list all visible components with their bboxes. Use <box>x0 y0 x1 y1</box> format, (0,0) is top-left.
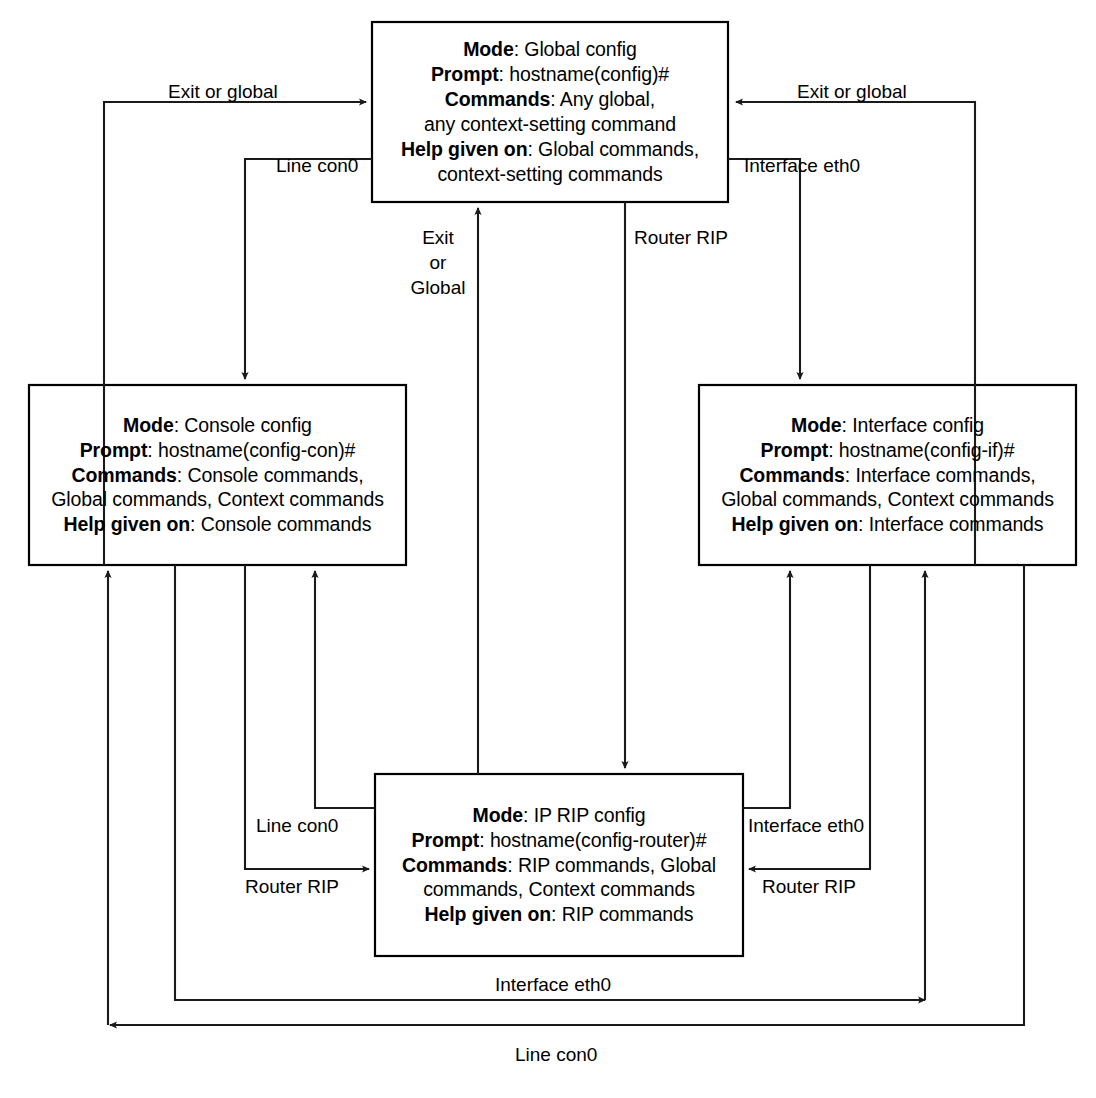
console-mode-label: Mode <box>123 414 174 436</box>
label-interface-eth0-bottom: Interface eth0 <box>495 973 611 996</box>
edge-rip-to-console-linecon0 <box>315 571 375 808</box>
interface-prompt-value: hostname(config-if)# <box>839 439 1015 461</box>
console-prompt-label: Prompt <box>80 439 148 461</box>
console-help-label: Help given on <box>64 513 191 535</box>
global-commands-line-2: any context-setting command <box>424 112 676 137</box>
label-interface-eth0-top: Interface eth0 <box>744 154 860 177</box>
rip-help-label: Help given on <box>425 903 552 925</box>
rip-mode-label: Mode <box>473 804 524 826</box>
rip-config-box-content: Mode: IP RIP config Prompt: hostname(con… <box>375 774 743 956</box>
global-help-line-2: context-setting commands <box>437 162 662 187</box>
label-exit-or-global-right: Exit or global <box>797 80 907 103</box>
global-help-value: Global commands, <box>538 138 699 160</box>
global-help-label: Help given on <box>401 138 528 160</box>
global-prompt-value: hostname(config)# <box>509 63 669 85</box>
label-line-con0-top: Line con0 <box>276 154 358 177</box>
rip-mode-line: Mode: IP RIP config <box>473 803 646 828</box>
label-exit-or-global-center-1: Exit <box>412 226 464 249</box>
interface-commands-label: Commands <box>739 464 844 486</box>
label-router-rip-mid-left: Router RIP <box>245 875 339 898</box>
rip-commands-line-2: commands, Context commands <box>423 877 695 902</box>
console-commands-line: Commands: Console commands, <box>71 463 363 488</box>
console-mode-line: Mode: Console config <box>123 413 312 438</box>
global-mode-label: Mode <box>463 38 514 60</box>
label-router-rip-mid-right: Router RIP <box>762 875 856 898</box>
global-prompt-line: Prompt: hostname(config)# <box>431 62 669 87</box>
label-interface-eth0-mid-right: Interface eth0 <box>748 814 864 837</box>
rip-prompt-value: hostname(config-router)# <box>490 829 707 851</box>
console-prompt-line: Prompt: hostname(config-con)# <box>80 438 356 463</box>
interface-help-line: Help given on: Interface commands <box>731 512 1043 537</box>
interface-config-box-content: Mode: Interface config Prompt: hostname(… <box>699 385 1076 565</box>
edge-rip-to-interface-eth0 <box>743 571 790 808</box>
rip-prompt-label: Prompt <box>412 829 480 851</box>
console-help-value: Console commands <box>201 513 372 535</box>
edge-global-to-interface-eth0 <box>728 159 800 379</box>
rip-help-value: RIP commands <box>562 903 694 925</box>
label-exit-or-global-center-3: Global <box>402 276 474 299</box>
global-help-line: Help given on: Global commands, <box>401 137 699 162</box>
console-mode-value: Console config <box>184 414 312 436</box>
rip-mode-value: IP RIP config <box>534 804 646 826</box>
rip-commands-value: RIP commands, Global <box>518 854 716 876</box>
console-config-box-content: Mode: Console config Prompt: hostname(co… <box>29 385 406 565</box>
interface-mode-value: Interface config <box>852 414 984 436</box>
global-commands-label: Commands <box>445 88 550 110</box>
configuration-mode-diagram: Mode: Global config Prompt: hostname(con… <box>0 0 1096 1098</box>
label-router-rip-center: Router RIP <box>634 226 728 249</box>
rip-prompt-line: Prompt: hostname(config-router)# <box>412 828 707 853</box>
interface-mode-label: Mode <box>791 414 842 436</box>
interface-commands-line-2: Global commands, Context commands <box>721 487 1054 512</box>
interface-commands-line: Commands: Interface commands, <box>739 463 1035 488</box>
interface-mode-line: Mode: Interface config <box>791 413 984 438</box>
interface-help-label: Help given on <box>731 513 858 535</box>
label-line-con0-mid-left: Line con0 <box>256 814 338 837</box>
interface-commands-value: Interface commands, <box>855 464 1035 486</box>
rip-commands-label: Commands <box>402 854 507 876</box>
global-mode-value: Global config <box>524 38 637 60</box>
interface-prompt-label: Prompt <box>760 439 828 461</box>
label-exit-or-global-center-2: or <box>412 251 464 274</box>
rip-help-line: Help given on: RIP commands <box>425 902 694 927</box>
console-commands-label: Commands <box>71 464 176 486</box>
label-line-con0-bottom: Line con0 <box>515 1043 597 1066</box>
global-commands-line: Commands: Any global, <box>445 87 655 112</box>
interface-help-value: Interface commands <box>869 513 1044 535</box>
interface-prompt-line: Prompt: hostname(config-if)# <box>760 438 1014 463</box>
edge-global-to-console-linecon0 <box>245 159 372 379</box>
global-mode-line: Mode: Global config <box>463 37 637 62</box>
label-exit-or-global-left: Exit or global <box>168 80 278 103</box>
console-commands-line-2: Global commands, Context commands <box>51 487 384 512</box>
global-config-box-content: Mode: Global config Prompt: hostname(con… <box>372 22 728 202</box>
rip-commands-line: Commands: RIP commands, Global <box>402 853 716 878</box>
global-prompt-label: Prompt <box>431 63 499 85</box>
global-commands-value: Any global, <box>560 88 655 110</box>
console-commands-value: Console commands, <box>187 464 363 486</box>
console-help-line: Help given on: Console commands <box>64 512 372 537</box>
console-prompt-value: hostname(config-con)# <box>158 439 355 461</box>
